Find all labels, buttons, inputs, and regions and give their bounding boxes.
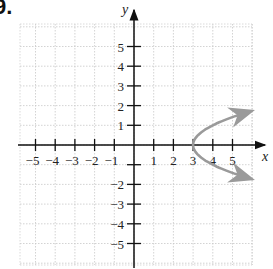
y-tick-label: 3 <box>118 79 125 94</box>
y-tick-label: 2 <box>118 99 125 114</box>
x-tick-label: −1 <box>104 153 118 168</box>
x-tick-label: 5 <box>229 153 236 168</box>
parabola-upper-branch <box>193 112 250 146</box>
x-tick-label: −4 <box>45 153 59 168</box>
y-tick-label: 4 <box>118 59 125 74</box>
y-tick-label: −5 <box>110 237 124 252</box>
x-tick-label: 3 <box>190 153 197 168</box>
y-axis-label: y <box>120 2 129 17</box>
x-tick-label: −5 <box>26 153 40 168</box>
y-tick-label: −2 <box>110 177 124 192</box>
y-tick-label: −4 <box>110 217 124 232</box>
x-tick-label: 1 <box>150 153 157 168</box>
y-tick-label: 5 <box>118 40 125 55</box>
x-tick-label: −2 <box>85 153 99 168</box>
x-tick-label: −3 <box>65 153 79 168</box>
x-tick-label: 2 <box>170 153 177 168</box>
y-tick-label: −3 <box>110 197 124 212</box>
y-tick-label: 1 <box>118 118 125 133</box>
x-axis-label: x <box>261 149 269 164</box>
parabola-lower-branch <box>193 145 250 179</box>
coordinate-plane: −5−4−3−2−112345−5−4−3−212345xy <box>0 0 273 269</box>
